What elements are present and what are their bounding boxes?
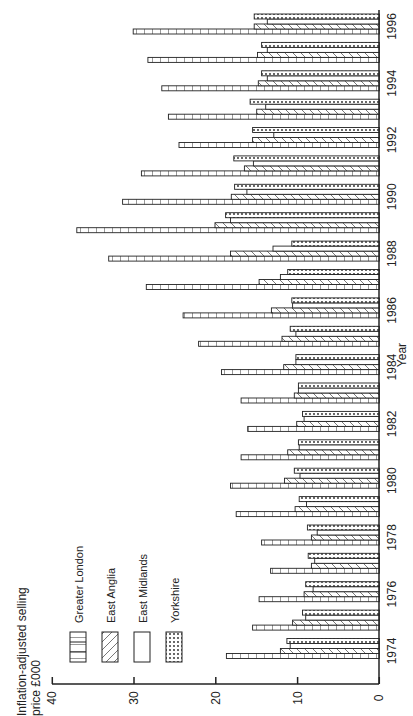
bar-east-anglia-1991 <box>244 166 379 171</box>
bar-yorkshire-1996 <box>254 14 379 19</box>
legend-label-yorkshire: Yorkshire <box>169 578 181 623</box>
year-group-1995 <box>148 42 379 62</box>
bar-east-midlands-1990 <box>247 189 379 194</box>
year-group-1987 <box>146 270 379 290</box>
legend-swatch-east-midlands <box>134 632 150 662</box>
bar-yorkshire-1989 <box>226 213 380 218</box>
year-group-1981 <box>241 440 379 460</box>
bar-yorkshire-1985 <box>290 326 379 331</box>
bar-greater-london-1995 <box>148 57 379 62</box>
bar-yorkshire-1984 <box>296 355 379 360</box>
category-tick-1996: 1996 <box>385 13 399 40</box>
bar-east-anglia-1985 <box>282 336 379 341</box>
bar-greater-london-1986 <box>183 313 379 318</box>
legend-label-greater-london: Greater London <box>73 546 85 623</box>
bar-east-anglia-1986 <box>271 308 379 313</box>
bar-yorkshire-1982 <box>303 411 380 416</box>
bar-east-midlands-1993 <box>266 104 380 109</box>
bar-yorkshire-1975 <box>303 610 380 615</box>
bar-east-midlands-1981 <box>299 445 379 450</box>
bar-greater-london-1988 <box>109 256 380 261</box>
year-group-1988 <box>109 241 380 261</box>
bar-east-anglia-1974 <box>280 649 379 654</box>
bar-yorkshire-1995 <box>262 42 380 47</box>
bar-east-anglia-1990 <box>231 194 379 199</box>
bar-east-anglia-1975 <box>293 620 380 625</box>
category-tick-1988: 1988 <box>385 240 399 267</box>
year-group-1990 <box>123 184 380 204</box>
year-group-1985 <box>199 326 380 346</box>
bar-greater-london-1996 <box>133 29 379 34</box>
bar-greater-london-1989 <box>77 228 380 233</box>
category-tick-1980: 1980 <box>385 467 399 494</box>
bar-east-anglia-1992 <box>253 138 380 143</box>
year-group-1986 <box>183 298 379 318</box>
bar-yorkshire-1991 <box>234 156 379 161</box>
bar-yorkshire-1976 <box>306 582 380 587</box>
bar-greater-london-1979 <box>236 512 379 517</box>
year-group-1979 <box>236 497 379 517</box>
bar-yorkshire-1979 <box>299 497 379 502</box>
y-axis-title-line1: Inflation-adjusted selling <box>15 587 29 716</box>
category-tick-1992: 1992 <box>385 126 399 153</box>
category-tick-1978: 1978 <box>385 524 399 551</box>
value-tick-labels: 010203040 <box>45 677 386 705</box>
bar-east-midlands-1991 <box>253 161 379 166</box>
bar-greater-london-1992 <box>179 143 379 148</box>
bars-group <box>77 14 380 659</box>
bar-greater-london-1978 <box>262 540 380 545</box>
bar-greater-london-1984 <box>222 370 380 375</box>
legend-label-east-anglia: East Anglia <box>105 567 117 623</box>
bar-east-anglia-1994 <box>258 81 379 86</box>
bar-yorkshire-1978 <box>307 525 379 530</box>
bar-greater-london-1985 <box>199 341 380 346</box>
year-group-1992 <box>179 128 379 148</box>
bar-east-midlands-1995 <box>267 47 379 52</box>
category-tick-1974: 1974 <box>385 637 399 664</box>
bar-east-midlands-1988 <box>273 246 379 251</box>
year-group-1975 <box>253 610 380 630</box>
year-group-1993 <box>168 99 379 119</box>
bar-east-midlands-1992 <box>274 133 380 138</box>
bar-greater-london-1977 <box>271 568 380 573</box>
bar-east-midlands-1983 <box>298 388 379 393</box>
y-axis-title-line2: price £000 <box>29 660 43 716</box>
x-axis-title: Year <box>395 343 409 367</box>
bar-east-midlands-1977 <box>315 558 380 563</box>
bar-east-anglia-1976 <box>304 592 379 597</box>
bar-greater-london-1982 <box>248 426 380 431</box>
bar-east-midlands-1996 <box>267 19 379 24</box>
bar-greater-london-1993 <box>168 114 379 119</box>
bar-east-anglia-1980 <box>285 478 380 483</box>
year-group-1980 <box>231 468 380 488</box>
bar-east-midlands-1978 <box>317 530 379 535</box>
value-tick-0: 0 <box>372 694 386 701</box>
bar-yorkshire-1980 <box>294 468 379 473</box>
bar-east-anglia-1996 <box>254 24 379 29</box>
bar-greater-london-1994 <box>162 86 379 91</box>
year-group-1974 <box>226 639 379 659</box>
bar-east-anglia-1988 <box>231 251 380 256</box>
year-group-1989 <box>77 213 380 233</box>
bar-east-anglia-1977 <box>311 563 379 568</box>
year-group-1983 <box>241 383 379 403</box>
legend-swatch-yorkshire <box>166 632 182 662</box>
bar-east-midlands-1994 <box>267 76 379 81</box>
bar-greater-london-1990 <box>123 199 380 204</box>
bar-east-anglia-1981 <box>288 450 380 455</box>
bar-yorkshire-1981 <box>298 440 379 445</box>
bar-east-anglia-1995 <box>258 52 380 57</box>
bar-east-midlands-1982 <box>304 416 379 421</box>
bar-east-anglia-1979 <box>295 507 379 512</box>
legend-swatch-east-anglia <box>102 632 118 662</box>
bar-east-midlands-1987 <box>280 275 379 280</box>
year-group-1978 <box>262 525 380 545</box>
bar-greater-london-1974 <box>226 654 379 659</box>
bar-yorkshire-1977 <box>308 553 379 558</box>
bar-yorkshire-1994 <box>262 71 380 76</box>
year-group-1982 <box>248 411 380 431</box>
bar-east-midlands-1984 <box>296 360 379 365</box>
bar-east-anglia-1984 <box>284 365 380 370</box>
legend-label-east-midlands: East Midlands <box>137 553 149 623</box>
bar-yorkshire-1993 <box>250 99 379 104</box>
